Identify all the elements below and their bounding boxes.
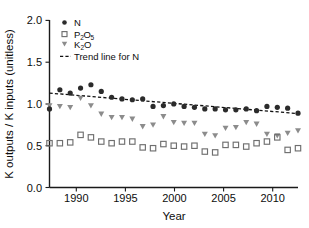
- data-point: [274, 133, 280, 138]
- data-point: [254, 122, 260, 127]
- data-point: [275, 105, 280, 110]
- data-point: [181, 121, 187, 126]
- data-point: [182, 104, 187, 109]
- legend-label-trend: Trend line for N: [74, 51, 139, 62]
- data-point: [295, 111, 300, 116]
- data-point: [109, 115, 115, 120]
- data-point: [212, 133, 218, 138]
- data-point: [233, 107, 238, 112]
- data-point: [191, 121, 197, 126]
- data-point: [233, 125, 239, 130]
- data-point: [285, 147, 290, 152]
- data-point: [171, 143, 176, 148]
- data-point: [140, 145, 145, 150]
- data-point: [150, 104, 155, 109]
- chart-legend: N P 2 O 5 K 2 O Trend line for N: [60, 17, 139, 62]
- data-point: [285, 106, 290, 111]
- x-axis-ticks: 1990 1995 2000 2005 2010: [64, 188, 285, 205]
- data-point: [202, 132, 208, 137]
- x-tick-label-2010: 2010: [260, 192, 284, 204]
- legend-marker-n-icon: [62, 20, 67, 25]
- data-point: [160, 114, 166, 119]
- data-point: [223, 107, 228, 112]
- data-point: [212, 150, 217, 155]
- data-point: [254, 141, 259, 146]
- data-point: [109, 95, 114, 100]
- data-point: [88, 135, 93, 140]
- legend-marker-p2o5-icon: [62, 32, 67, 37]
- data-point: [244, 144, 249, 149]
- chart-container: 2.0 1.5 1.0 0.5 0.0 1990 1995 2000 2005 …: [0, 0, 309, 228]
- legend-label-k2o-o: O: [84, 39, 91, 50]
- y-tick-label-0.0: 0.0: [27, 182, 42, 194]
- data-point: [202, 106, 207, 111]
- data-point: [57, 141, 62, 146]
- x-axis-title: Year: [162, 210, 185, 222]
- data-point: [223, 126, 229, 131]
- data-point: [264, 104, 269, 109]
- data-point: [140, 96, 145, 101]
- data-point: [150, 146, 155, 151]
- legend-marker-k2o-icon: [62, 42, 67, 47]
- data-point: [150, 122, 156, 127]
- data-point: [264, 132, 270, 137]
- data-point: [254, 108, 259, 113]
- data-point: [47, 106, 52, 111]
- data-point: [57, 104, 63, 109]
- data-point: [243, 120, 249, 125]
- x-tick-label-1995: 1995: [113, 192, 137, 204]
- data-point: [213, 106, 218, 111]
- data-point: [67, 105, 73, 110]
- y-tick-label-1.0: 1.0: [27, 98, 42, 110]
- legend-label-n: N: [74, 17, 81, 28]
- y-axis-title: K outputs / K inputs (unitless): [3, 29, 15, 179]
- data-point: [295, 128, 301, 133]
- data-point: [68, 140, 73, 145]
- data-point: [130, 97, 135, 102]
- y-tick-label-2.0: 2.0: [27, 14, 42, 26]
- data-point: [78, 132, 83, 137]
- data-point: [161, 103, 166, 108]
- series-p2o5-markers: [47, 132, 301, 155]
- data-point: [88, 103, 94, 108]
- data-point: [98, 112, 104, 117]
- data-point: [119, 139, 124, 144]
- y-tick-label-0.5: 0.5: [27, 140, 42, 152]
- data-point: [88, 82, 93, 87]
- data-point: [119, 96, 124, 101]
- data-point: [295, 146, 300, 151]
- data-point: [171, 101, 176, 106]
- data-point: [264, 139, 269, 144]
- data-point: [78, 85, 83, 90]
- data-point: [192, 143, 197, 148]
- data-point: [99, 89, 104, 94]
- data-point: [202, 149, 207, 154]
- data-point: [192, 105, 197, 110]
- data-point: [129, 117, 135, 122]
- y-axis-ticks: 2.0 1.5 1.0 0.5 0.0: [27, 14, 50, 193]
- data-point: [181, 144, 186, 149]
- data-point: [171, 120, 177, 125]
- y-tick-label-1.5: 1.5: [27, 56, 42, 68]
- scatter-plot: 2.0 1.5 1.0 0.5 0.0 1990 1995 2000 2005 …: [0, 0, 309, 228]
- x-tick-label-2000: 2000: [162, 192, 186, 204]
- x-tick-label-1990: 1990: [64, 192, 88, 204]
- data-point: [244, 106, 249, 111]
- data-point: [119, 115, 125, 120]
- data-point: [233, 142, 238, 147]
- data-point: [285, 131, 291, 136]
- data-point: [130, 139, 135, 144]
- data-point: [109, 141, 114, 146]
- x-tick-label-2005: 2005: [211, 192, 235, 204]
- data-point: [68, 90, 73, 95]
- data-point: [140, 124, 146, 129]
- data-point: [99, 139, 104, 144]
- data-point: [223, 142, 228, 147]
- data-point: [78, 96, 84, 101]
- data-point: [161, 141, 166, 146]
- data-point: [57, 87, 62, 92]
